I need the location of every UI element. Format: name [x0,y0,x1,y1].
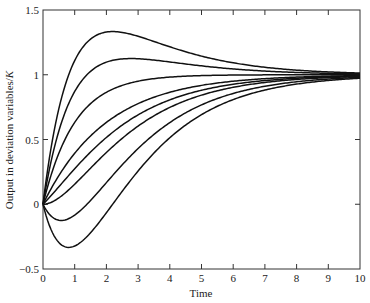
y-tick-label: 1 [34,69,40,81]
y-axis-label: Output in deviation variables/K [3,70,15,209]
y-tick-label: −0.5 [19,263,39,275]
x-tick-label: 8 [294,272,300,284]
y-axis-label-italic: K [3,70,15,79]
y-tick-label: 0 [34,198,40,210]
y-tick-label: 1.5 [25,4,39,16]
y-axis-ticks: −0.500.511.5 [19,4,360,275]
response-curve-curve-1 [43,32,360,205]
x-tick-label: 0 [40,272,46,284]
x-tick-label: 2 [104,272,110,284]
y-axis-label-text: Output in deviation variables/ [3,77,15,209]
step-response-chart: 012345678910 −0.500.511.5 Time Output in… [0,0,370,303]
x-tick-label: 1 [72,272,78,284]
response-curve-curve-7 [43,77,360,220]
y-tick-label: 0.5 [25,134,39,146]
x-axis-label: Time [190,287,213,299]
x-tick-label: 5 [199,272,205,284]
x-tick-label: 3 [135,272,141,284]
x-tick-label: 4 [167,272,173,284]
response-curve-curve-6 [43,76,360,204]
x-tick-label: 6 [230,272,236,284]
x-tick-label: 7 [262,272,268,284]
x-axis-ticks: 012345678910 [40,10,366,284]
response-curve-curve-3 [43,75,360,204]
x-tick-label: 10 [355,272,367,284]
plot-frame [43,10,360,269]
x-tick-label: 9 [326,272,332,284]
response-curves [43,32,360,248]
